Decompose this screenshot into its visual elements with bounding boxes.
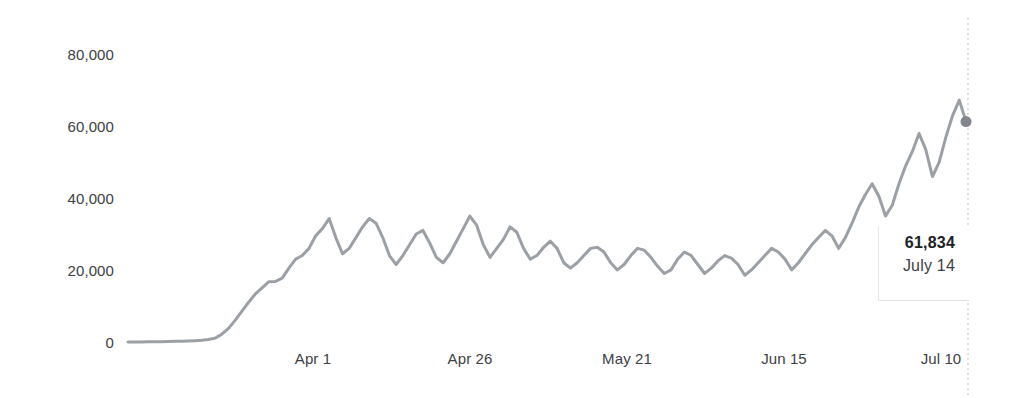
line-chart-plot <box>0 0 1023 398</box>
chart-series-group <box>128 100 966 342</box>
y-axis-tick-0: 0 <box>36 334 114 351</box>
data-point-tooltip: 61,834 July 14 <box>878 226 969 301</box>
y-axis-tick-40000: 40,000 <box>36 190 114 207</box>
x-axis-tick-apr-26: Apr 26 <box>448 350 493 367</box>
x-axis-tick-apr-1: Apr 1 <box>295 350 331 367</box>
tooltip-date-label: July 14 <box>889 254 955 278</box>
chart-container: 80,000 60,000 40,000 20,000 0 Apr 1 Apr … <box>0 0 1023 398</box>
tooltip-value-label: 61,834 <box>889 232 955 254</box>
highlight-point-marker[interactable] <box>961 116 972 127</box>
x-axis-tick-jun-15: Jun 15 <box>761 350 807 367</box>
y-axis-tick-60000: 60,000 <box>36 118 114 135</box>
series-line-primary <box>128 100 966 342</box>
x-axis-tick-may-21: May 21 <box>602 350 652 367</box>
x-axis-tick-jul-10: Jul 10 <box>921 350 962 367</box>
y-axis-tick-80000: 80,000 <box>36 46 114 63</box>
y-axis-tick-20000: 20,000 <box>36 262 114 279</box>
